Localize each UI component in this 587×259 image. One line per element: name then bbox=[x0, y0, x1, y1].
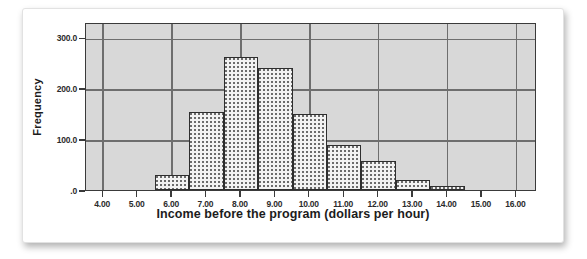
x-tick-mark bbox=[170, 191, 171, 197]
y-tick-mark bbox=[79, 190, 85, 191]
x-axis-title: Income before the program (dollars per h… bbox=[23, 207, 563, 221]
y-tick-label: 300.0 bbox=[57, 33, 77, 43]
histogram-bar bbox=[189, 112, 223, 190]
x-tick-mark bbox=[377, 191, 378, 197]
histogram-bar bbox=[396, 180, 430, 190]
y-tick-label: .0 bbox=[70, 186, 77, 196]
gridline-vertical bbox=[447, 24, 449, 190]
gridline-vertical bbox=[102, 24, 104, 190]
y-tick-label: 100.0 bbox=[57, 135, 77, 145]
x-tick-mark bbox=[102, 191, 103, 197]
x-tick-mark bbox=[136, 191, 137, 197]
x-tick-mark bbox=[205, 191, 206, 197]
histogram-bar bbox=[258, 68, 292, 190]
y-tick-mark bbox=[79, 139, 85, 140]
y-tick-label: 200.0 bbox=[57, 84, 77, 94]
x-tick-mark bbox=[343, 191, 344, 197]
histogram-bar bbox=[327, 145, 361, 190]
x-tick-mark bbox=[239, 191, 240, 197]
histogram-bar bbox=[224, 57, 258, 190]
gridline-horizontal bbox=[86, 39, 535, 41]
x-tick-mark bbox=[308, 191, 309, 197]
histogram-plot-area bbox=[85, 23, 536, 191]
x-tick-mark bbox=[411, 191, 412, 197]
gridline-vertical bbox=[516, 24, 518, 190]
x-tick-mark bbox=[515, 191, 516, 197]
y-tick-mark bbox=[79, 38, 85, 39]
histogram-bar bbox=[430, 186, 464, 190]
x-tick-mark bbox=[480, 191, 481, 197]
figure-card: 4.005.006.007.008.009.0010.0011.0012.001… bbox=[22, 8, 564, 243]
gridline-vertical bbox=[171, 24, 173, 190]
histogram-bar bbox=[361, 161, 395, 190]
x-tick-mark bbox=[274, 191, 275, 197]
histogram-bar bbox=[293, 114, 327, 190]
histogram-bar bbox=[155, 175, 189, 190]
gridline-horizontal bbox=[86, 89, 535, 91]
y-tick-mark bbox=[79, 88, 85, 89]
x-tick-mark bbox=[446, 191, 447, 197]
y-axis-title: Frequency bbox=[31, 78, 43, 135]
